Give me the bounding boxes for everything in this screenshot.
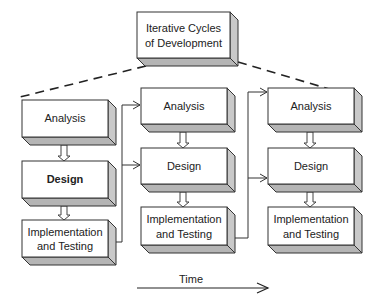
- implementation-label-line1: Implementation: [273, 213, 348, 225]
- flow-arrow-analysis-to-design: [304, 132, 316, 148]
- dashed-line-left: [20, 66, 146, 97]
- time-axis: Time: [137, 273, 268, 288]
- flow-arrow-analysis-to-design: [177, 132, 189, 148]
- implementation-label-line2: and Testing: [37, 240, 93, 252]
- implementation-label-line2: and Testing: [283, 228, 339, 240]
- design-label: Design: [47, 173, 84, 185]
- title-box: Iterative Cycles of Development: [137, 12, 238, 66]
- design-box: Design: [22, 161, 116, 206]
- implementation-box: Implementation and Testing: [141, 207, 235, 253]
- time-label: Time: [179, 273, 203, 285]
- design-label: Design: [167, 160, 201, 172]
- analysis-label: Analysis: [164, 100, 205, 112]
- implementation-label-line2: and Testing: [156, 228, 212, 240]
- connector-cycle2-to-cycle3: [235, 92, 267, 238]
- analysis-box: Analysis: [22, 100, 116, 145]
- cycle-1: Analysis Design Implementation and Testi…: [22, 100, 116, 265]
- implementation-box: Implementation and Testing: [22, 220, 116, 265]
- flow-arrow-design-to-implementation: [304, 192, 316, 207]
- analysis-box: Analysis: [141, 88, 235, 132]
- analysis-label: Analysis: [45, 112, 86, 124]
- flow-arrow-design-to-implementation: [177, 192, 189, 207]
- title-box-line1: Iterative Cycles: [146, 22, 222, 34]
- flow-arrow-design-to-implementation: [58, 206, 70, 220]
- flow-arrow-analysis-to-design: [58, 145, 70, 161]
- design-label: Design: [294, 160, 328, 172]
- implementation-label-line1: Implementation: [27, 226, 102, 238]
- iterative-development-diagram: Iterative Cycles of Development Analysis…: [0, 0, 379, 307]
- title-box-line2: of Development: [145, 37, 222, 49]
- design-box: Design: [268, 148, 362, 192]
- analysis-label: Analysis: [291, 100, 332, 112]
- analysis-box: Analysis: [268, 88, 362, 132]
- connector-cycle1-to-cycle2: [116, 105, 140, 242]
- design-box: Design: [141, 148, 235, 192]
- implementation-label-line1: Implementation: [146, 213, 221, 225]
- implementation-box: Implementation and Testing: [268, 207, 362, 253]
- cycle-3: Analysis Design Implementation and Testi…: [268, 88, 362, 253]
- cycle-2: Analysis Design Implementation and Testi…: [141, 88, 235, 253]
